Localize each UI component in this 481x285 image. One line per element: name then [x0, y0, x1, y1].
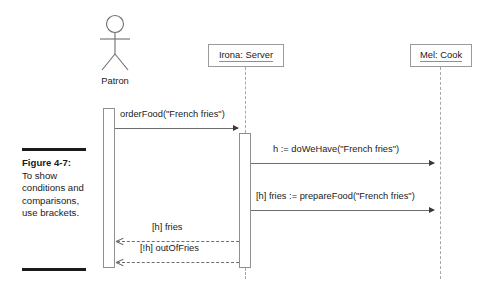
lifeline-head-irona-label: Irona: Server: [219, 49, 273, 62]
message-2-arrowhead: [429, 160, 435, 166]
message-1-line: [115, 128, 238, 129]
message-1-arrowhead: [233, 125, 239, 131]
lifeline-irona-lower: [245, 268, 246, 279]
message-5-arrowhead: [116, 258, 124, 267]
lifeline-head-irona[interactable]: Irona: Server: [208, 44, 284, 67]
lifeline-irona-upper: [245, 67, 246, 133]
lifeline-head-mel-label: Mel: Cook: [420, 49, 462, 62]
actor-patron-label: Patron: [92, 75, 138, 86]
lifeline-head-mel[interactable]: Mel: Cook: [410, 44, 472, 67]
message-4-label: [h] fries: [152, 222, 182, 232]
message-2-line: [251, 163, 434, 164]
message-3-arrowhead: [429, 207, 435, 213]
message-4-line: [117, 241, 239, 242]
lifeline-mel: [440, 67, 441, 279]
actor-patron-icon: [92, 14, 138, 72]
activation-bar-irona: [239, 133, 251, 268]
message-3-label: [h] fries := prepareFood("French fries"): [256, 191, 415, 201]
uml-sequence-diagram: Patron Irona: Server Mel: Cook orderFood…: [0, 0, 481, 285]
message-5-line: [117, 262, 239, 263]
activation-bar-patron: [103, 108, 115, 268]
message-2-label: h := doWeHave("French fries"): [273, 144, 399, 154]
message-1-label: orderFood("French fries"): [120, 109, 225, 119]
message-4-arrowhead: [116, 237, 124, 246]
message-5-label: [!h] outOfFries: [140, 243, 199, 253]
figure-page: Figure 4-7: To show conditions and compa…: [0, 0, 481, 285]
message-3-line: [251, 210, 434, 211]
